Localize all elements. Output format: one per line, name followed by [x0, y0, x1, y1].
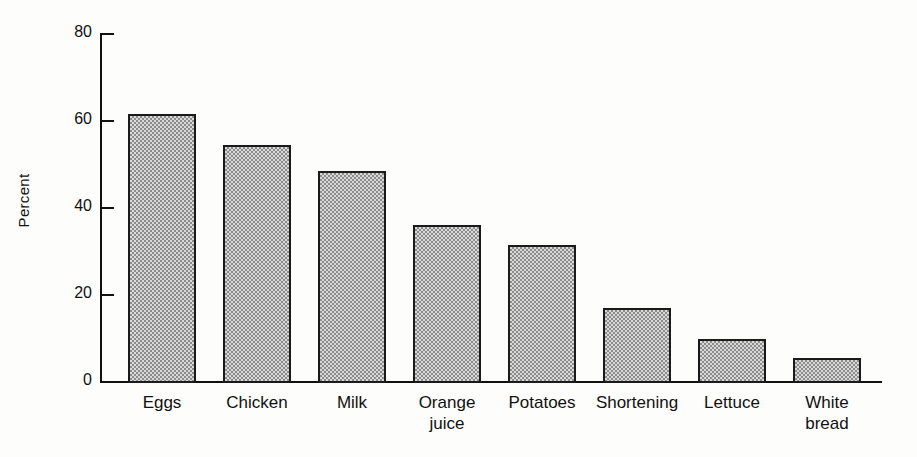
bar-eggs	[128, 114, 196, 383]
category-label-white-bread: White bread	[775, 392, 879, 434]
bar-potatoes	[508, 245, 576, 383]
y-tick-0	[100, 381, 114, 383]
bar-orange-juice	[413, 225, 481, 383]
category-label-orange-juice: Orange juice	[395, 392, 499, 434]
category-label-milk: Milk	[300, 392, 404, 413]
bar-white-bread	[793, 358, 861, 383]
y-tick-20	[100, 294, 114, 296]
bar-chart-plot: Percent 020406080 EggsChickenMilkOrange …	[0, 0, 917, 457]
y-tick-label-wrap-80: 80	[48, 34, 92, 35]
category-label-chicken: Chicken	[205, 392, 309, 413]
y-tick-label-wrap-20: 20	[48, 295, 92, 296]
bar-shortening	[603, 308, 671, 383]
category-label-eggs: Eggs	[110, 392, 214, 413]
y-tick-label-60: 60	[52, 110, 92, 128]
y-tick-60	[100, 120, 114, 122]
y-axis-label: Percent	[15, 156, 32, 246]
y-tick-label-wrap-40: 40	[48, 208, 92, 209]
y-tick-label-80: 80	[52, 23, 92, 41]
y-tick-40	[100, 207, 114, 209]
y-tick-80	[100, 33, 114, 35]
category-label-potatoes: Potatoes	[490, 392, 594, 413]
bar-milk	[318, 171, 386, 383]
y-tick-label-40: 40	[52, 197, 92, 215]
y-tick-label-wrap-60: 60	[48, 121, 92, 122]
y-tick-label-wrap-0: 0	[48, 382, 92, 383]
chart-page: Percent 020406080 EggsChickenMilkOrange …	[0, 0, 917, 457]
category-label-lettuce: Lettuce	[680, 392, 784, 413]
category-label-shortening: Shortening	[585, 392, 689, 413]
bar-lettuce	[698, 339, 766, 384]
y-tick-label-20: 20	[52, 284, 92, 302]
y-tick-label-0: 0	[52, 371, 92, 389]
bar-chicken	[223, 145, 291, 383]
